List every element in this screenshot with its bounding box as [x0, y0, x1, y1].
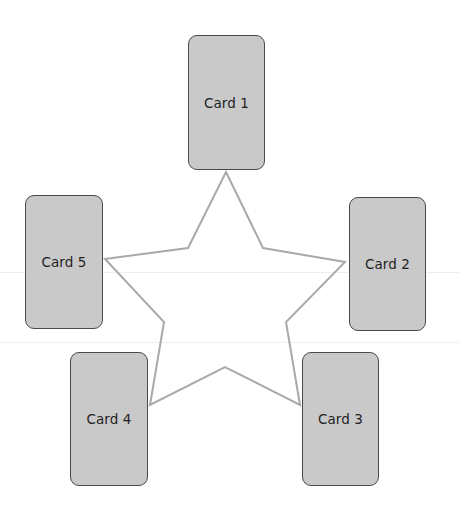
card-label: Card 3 — [318, 411, 363, 427]
card-label: Card 1 — [204, 95, 249, 111]
card-1: Card 1 — [188, 35, 265, 170]
card-2: Card 2 — [349, 197, 426, 331]
card-label: Card 4 — [86, 411, 131, 427]
card-label: Card 5 — [41, 254, 86, 270]
card-3: Card 3 — [302, 352, 379, 486]
card-5: Card 5 — [25, 195, 103, 329]
card-4: Card 4 — [70, 352, 148, 486]
card-label: Card 2 — [365, 256, 410, 272]
